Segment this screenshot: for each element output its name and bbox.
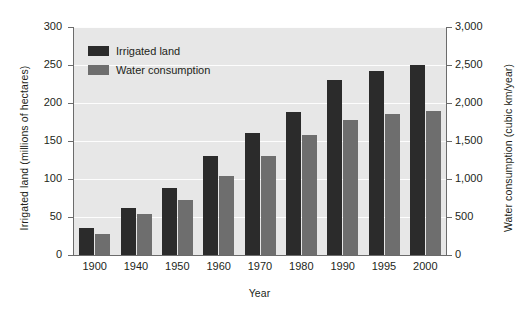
y-axis-left-line <box>73 27 74 256</box>
y-axis-left-title: Irrigated land (millions of hectares) <box>18 38 30 258</box>
bar-water-consumption-2000 <box>426 111 441 255</box>
x-axis-line <box>73 255 447 256</box>
bar-water-consumption-1900 <box>95 234 110 255</box>
y-axis-right-tick-label: 2,000 <box>455 96 483 108</box>
y-axis-left-tick-label: 100 <box>44 172 62 184</box>
chart-container: 05010015020025030005001,0001,5002,0002,5… <box>0 0 532 311</box>
y-axis-left-tick-label: 250 <box>44 58 62 70</box>
bar-water-consumption-1950 <box>178 200 193 255</box>
bar-irrigated-land-1980 <box>286 112 301 255</box>
y-axis-left-tick <box>68 217 73 218</box>
chart-legend: Irrigated land Water consumption <box>88 42 210 80</box>
bar-irrigated-land-1995 <box>369 71 384 255</box>
y-axis-right-tick <box>447 179 452 180</box>
bar-irrigated-land-1940 <box>121 208 136 255</box>
y-axis-right-tick-label: 500 <box>455 210 473 222</box>
y-axis-left-tick <box>68 103 73 104</box>
y-axis-left-tick-label: 150 <box>44 134 62 146</box>
y-axis-right-tick <box>447 141 452 142</box>
y-axis-left-tick <box>68 65 73 66</box>
bar-irrigated-land-1950 <box>162 188 177 255</box>
y-axis-right-tick-label: 1,500 <box>455 134 483 146</box>
y-axis-right-tick-label: 0 <box>455 248 461 260</box>
bar-water-consumption-1980 <box>302 135 317 255</box>
bar-water-consumption-1990 <box>343 120 358 255</box>
legend-swatch-water-consumption <box>88 65 109 75</box>
gridline <box>74 27 446 28</box>
bar-water-consumption-1970 <box>261 156 276 255</box>
legend-item-irrigated-land: Irrigated land <box>88 42 210 59</box>
y-axis-left-tick-label: 50 <box>50 210 62 222</box>
legend-swatch-irrigated-land <box>88 46 109 56</box>
y-axis-right-tick <box>447 27 452 28</box>
bar-irrigated-land-1960 <box>203 156 218 255</box>
y-axis-right-tick <box>447 65 452 66</box>
y-axis-right-tick-label: 3,000 <box>455 20 483 32</box>
bar-water-consumption-1960 <box>219 176 234 255</box>
legend-label-irrigated-land: Irrigated land <box>116 45 180 57</box>
y-axis-right-tick-label: 1,000 <box>455 172 483 184</box>
gridline <box>74 103 446 104</box>
legend-item-water-consumption: Water consumption <box>88 61 210 78</box>
x-axis-tick-label-2000: 2000 <box>395 260 455 272</box>
y-axis-left-tick <box>68 141 73 142</box>
bar-irrigated-land-1970 <box>245 133 260 255</box>
y-axis-right-tick <box>447 255 452 256</box>
y-axis-left-tick-label: 0 <box>56 248 62 260</box>
legend-label-water-consumption: Water consumption <box>116 64 210 76</box>
bar-irrigated-land-2000 <box>410 65 425 255</box>
y-axis-left-tick <box>68 179 73 180</box>
y-axis-left-tick-label: 200 <box>44 96 62 108</box>
y-axis-right-tick <box>447 103 452 104</box>
bar-irrigated-land-1900 <box>79 228 94 255</box>
bar-water-consumption-1995 <box>385 114 400 255</box>
y-axis-right-tick <box>447 217 452 218</box>
y-axis-left-tick <box>68 27 73 28</box>
bar-irrigated-land-1990 <box>327 80 342 255</box>
y-axis-left-tick <box>68 255 73 256</box>
x-axis-title: Year <box>73 287 446 299</box>
bar-water-consumption-1940 <box>137 214 152 255</box>
y-axis-right-tick-label: 2,500 <box>455 58 483 70</box>
y-axis-left-tick-label: 300 <box>44 20 62 32</box>
y-axis-right-title: Water consumption (cubic km/year) <box>502 38 514 258</box>
